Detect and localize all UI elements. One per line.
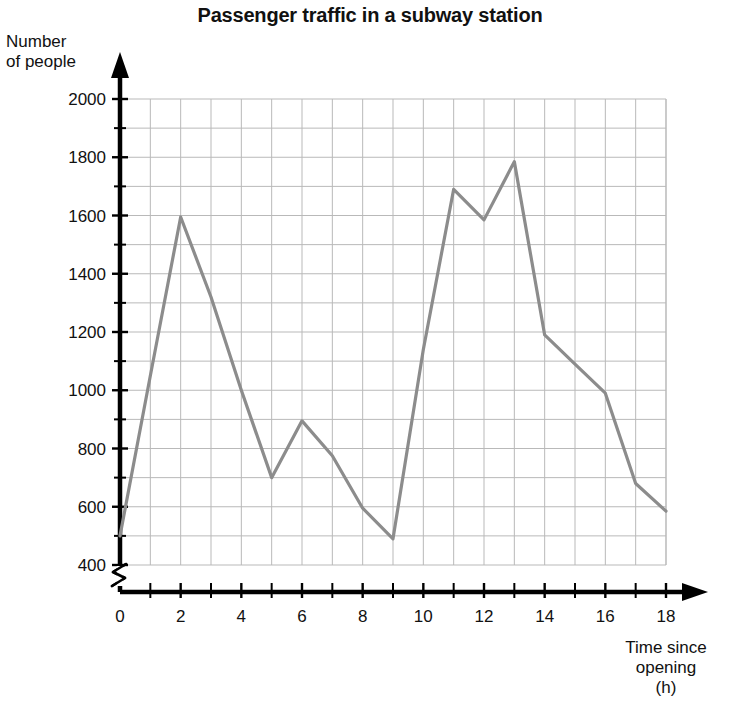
x-tick-label: 14	[535, 607, 554, 626]
x-tick-label: 0	[115, 607, 124, 626]
grid-lines	[120, 99, 666, 565]
x-tick-label: 4	[237, 607, 246, 626]
x-tick-label: 2	[176, 607, 185, 626]
y-tick-label: 2000	[68, 90, 106, 109]
chart-figure: Passenger traffic in a subway station Nu…	[0, 0, 740, 716]
y-tick-label: 600	[78, 498, 106, 517]
y-tick-labels: 400600800100012001400160018002000	[68, 90, 106, 575]
x-tick-label: 8	[358, 607, 367, 626]
y-tick-label: 1600	[68, 207, 106, 226]
x-tick-label: 6	[297, 607, 306, 626]
x-tick-label: 18	[657, 607, 676, 626]
axis-lines	[111, 52, 708, 601]
y-tick-label: 1000	[68, 381, 106, 400]
x-tick-label: 10	[414, 607, 433, 626]
y-tick-label: 800	[78, 440, 106, 459]
x-tick-label: 12	[475, 607, 494, 626]
y-tick-label: 1800	[68, 148, 106, 167]
y-tick-label: 400	[78, 556, 106, 575]
plot-area: 400600800100012001400160018002000 024681…	[0, 0, 740, 716]
y-tick-label: 1200	[68, 323, 106, 342]
y-tick-label: 1400	[68, 265, 106, 284]
x-tick-label: 16	[596, 607, 615, 626]
x-tick-labels: 024681012141618	[115, 607, 675, 626]
